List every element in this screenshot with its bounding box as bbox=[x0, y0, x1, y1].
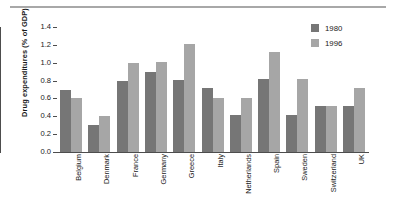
x-axis-label-sweden: Sweden bbox=[300, 154, 309, 181]
y-axis-tick-label: 1.2 bbox=[27, 40, 51, 49]
y-axis-line bbox=[0, 27, 1, 153]
y-axis-tick bbox=[53, 27, 57, 28]
bar-group: Sweden bbox=[286, 27, 308, 152]
y-axis-tick bbox=[53, 134, 57, 135]
bar-group: Denmark bbox=[88, 27, 110, 152]
x-axis-label-italy: Italy bbox=[216, 154, 225, 168]
bar-uk-1980 bbox=[343, 106, 354, 152]
legend-swatch-icon bbox=[311, 24, 319, 32]
y-axis-tick-label: 0.4 bbox=[27, 111, 51, 120]
bar-france-1980 bbox=[117, 81, 128, 152]
y-axis-tick bbox=[53, 63, 57, 64]
x-axis-label-uk: UK bbox=[357, 154, 366, 164]
bar-germany-1980 bbox=[145, 72, 156, 152]
bar-greece-1996 bbox=[184, 44, 195, 152]
y-axis-tick-label: 1.0 bbox=[27, 58, 51, 67]
bar-switzerland-1996 bbox=[326, 106, 337, 152]
y-axis-tick-label: 0.0 bbox=[27, 147, 51, 156]
bar-chart: Drug expenditures (% of GDP) 0.00.20.40.… bbox=[0, 0, 396, 223]
bar-sweden-1980 bbox=[286, 115, 297, 152]
legend-label: 1980 bbox=[325, 24, 342, 33]
bar-group: UK bbox=[343, 27, 365, 152]
bar-italy-1996 bbox=[213, 98, 224, 152]
bar-group: Netherlands bbox=[230, 27, 252, 152]
bar-group: Germany bbox=[145, 27, 167, 152]
bar-netherlands-1996 bbox=[241, 98, 252, 152]
bar-france-1996 bbox=[128, 63, 139, 152]
x-axis-label-france: France bbox=[131, 154, 140, 177]
x-axis-label-switzerland: Switzerland bbox=[329, 154, 338, 192]
x-axis-label-belgium: Belgium bbox=[74, 154, 83, 181]
bar-netherlands-1980 bbox=[230, 115, 241, 152]
bar-switzerland-1980 bbox=[315, 106, 326, 152]
bar-germany-1996 bbox=[156, 62, 167, 152]
y-axis-tick bbox=[53, 152, 57, 153]
x-axis-label-greece: Greece bbox=[187, 154, 196, 178]
legend-item-1996: 1996 bbox=[311, 37, 342, 49]
bar-spain-1996 bbox=[269, 52, 280, 152]
bar-uk-1996 bbox=[354, 88, 365, 152]
legend-swatch-icon bbox=[311, 39, 319, 47]
bar-italy-1980 bbox=[202, 88, 213, 152]
y-axis-tick-label: 0.2 bbox=[27, 129, 51, 138]
y-axis-tick bbox=[53, 98, 57, 99]
bar-group: France bbox=[117, 27, 139, 152]
x-axis-line bbox=[57, 152, 369, 153]
bar-belgium-1996 bbox=[71, 98, 82, 152]
bar-group: Belgium bbox=[60, 27, 82, 152]
bar-belgium-1980 bbox=[60, 90, 71, 153]
y-axis-tick bbox=[53, 116, 57, 117]
bar-group: Greece bbox=[173, 27, 195, 152]
chart-legend: 19801996 bbox=[311, 22, 342, 52]
y-axis-tick bbox=[53, 81, 57, 82]
y-axis-tick-label: 0.8 bbox=[27, 76, 51, 85]
legend-label: 1996 bbox=[325, 39, 342, 48]
bar-denmark-1996 bbox=[99, 116, 110, 152]
y-axis-tick bbox=[53, 45, 57, 46]
bar-denmark-1980 bbox=[88, 125, 99, 152]
x-axis-label-denmark: Denmark bbox=[102, 154, 111, 184]
y-axis-tick-label: 0.6 bbox=[27, 93, 51, 102]
x-axis-label-netherlands: Netherlands bbox=[244, 154, 253, 194]
legend-item-1980: 1980 bbox=[311, 22, 342, 34]
bar-sweden-1996 bbox=[297, 79, 308, 152]
bar-spain-1980 bbox=[258, 79, 269, 152]
bar-group: Spain bbox=[258, 27, 280, 152]
bar-greece-1980 bbox=[173, 80, 184, 152]
x-axis-label-germany: Germany bbox=[159, 154, 168, 184]
x-axis-label-spain: Spain bbox=[272, 154, 281, 173]
y-axis-tick-label: 1.4 bbox=[27, 22, 51, 31]
bar-group: Italy bbox=[202, 27, 224, 152]
